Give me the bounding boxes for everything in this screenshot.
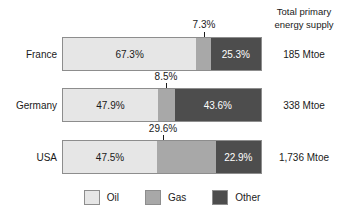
category-label-usa: USA <box>0 140 57 174</box>
legend-label-gas: Gas <box>168 192 186 203</box>
legend-swatch-oil <box>84 190 100 205</box>
legend-label-other: Other <box>235 192 260 203</box>
segment-gas-france: 7.3% <box>196 38 210 70</box>
legend-label-oil: Oil <box>107 192 119 203</box>
bar-germany: 47.9% 8.5% 43.6% <box>62 88 262 122</box>
legend-swatch-other <box>212 190 228 205</box>
segment-value-oil-france: 67.3% <box>115 49 143 60</box>
bar-usa: 47.5% 29.6% 22.9% <box>62 140 262 174</box>
stacked-bar-chart: Total primary energy supply 7.3% France … <box>0 0 344 216</box>
chart-row-france: France 67.3% 7.3% 25.3% 185 Mtoe <box>0 37 344 71</box>
chart-row-usa: USA 47.5% 29.6% 22.9% 1,736 Mtoe <box>0 140 344 174</box>
total-supply-column-header: Total primary energy supply <box>264 6 344 31</box>
bar-france: 67.3% 7.3% 25.3% <box>62 37 262 71</box>
header-line-1: Total primary <box>264 6 344 19</box>
segment-value-oil-usa: 47.5% <box>96 152 124 163</box>
category-label-germany: Germany <box>0 88 57 122</box>
legend-swatch-gas <box>145 190 161 205</box>
total-value-germany: 338 Mtoe <box>264 88 344 122</box>
gas-callout-germany: 8.5% <box>155 71 178 82</box>
header-line-2: energy supply <box>264 19 344 32</box>
total-value-france: 185 Mtoe <box>264 37 344 71</box>
legend-item-gas: Gas <box>145 190 186 205</box>
segment-other-france: 25.3% <box>211 38 261 70</box>
segment-other-germany: 43.6% <box>175 89 261 121</box>
gas-callout-france: 7.3% <box>193 19 216 30</box>
legend-item-other: Other <box>212 190 260 205</box>
segment-value-other-germany: 43.6% <box>204 100 232 111</box>
segment-value-other-usa: 22.9% <box>224 152 252 163</box>
segment-oil-germany: 47.9% <box>63 89 158 121</box>
segment-gas-usa: 29.6% <box>157 141 216 173</box>
segment-oil-france: 67.3% <box>63 38 196 70</box>
gas-callout-usa: 29.6% <box>149 123 177 134</box>
chart-legend: Oil Gas Other <box>0 184 344 210</box>
total-value-usa: 1,736 Mtoe <box>264 140 344 174</box>
segment-other-usa: 22.9% <box>216 141 261 173</box>
segment-value-other-france: 25.3% <box>222 49 250 60</box>
chart-row-germany: Germany 47.9% 8.5% 43.6% 338 Mtoe <box>0 88 344 122</box>
segment-oil-usa: 47.5% <box>63 141 157 173</box>
category-label-france: France <box>0 37 57 71</box>
legend-item-oil: Oil <box>84 190 119 205</box>
segment-value-oil-germany: 47.9% <box>96 100 124 111</box>
segment-gas-germany: 8.5% <box>158 89 175 121</box>
